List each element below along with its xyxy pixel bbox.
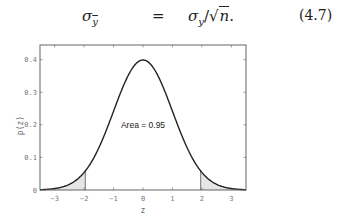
y-axis-label: p(z) xyxy=(16,116,25,135)
x-tick-label: 2 xyxy=(200,195,204,203)
x-tick-label: −3 xyxy=(50,195,58,203)
y-tick-label: 0 xyxy=(33,187,37,195)
x-axis-label: z xyxy=(141,206,146,215)
x-tick-label: 0 xyxy=(141,195,145,203)
normal-distribution-chart: −3−2−1012300.10.20.30.4zp(z)Area = 0.95 xyxy=(0,0,344,224)
x-tick-label: −1 xyxy=(109,195,117,203)
plot-frame xyxy=(40,45,246,190)
x-tick-label: 1 xyxy=(170,195,174,203)
x-tick-label: 3 xyxy=(229,195,233,203)
y-tick-label: 0.3 xyxy=(24,89,37,97)
area-annotation: Area = 0.95 xyxy=(121,120,165,130)
y-tick-label: 0.4 xyxy=(24,56,37,64)
y-tick-label: 0.1 xyxy=(24,154,37,162)
x-tick-label: −2 xyxy=(80,195,88,203)
y-tick-label: 0.2 xyxy=(24,121,37,129)
